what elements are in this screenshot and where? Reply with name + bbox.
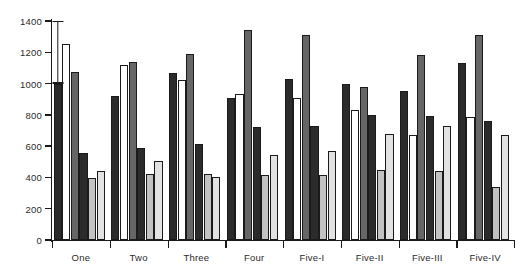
error-bar-cap-top — [52, 21, 63, 22]
bar — [409, 135, 417, 240]
bar — [475, 35, 483, 240]
y-axis-tick — [45, 177, 51, 178]
x-axis-group-separator — [456, 240, 457, 248]
bar — [501, 135, 509, 240]
bar — [129, 62, 137, 240]
bar — [261, 175, 269, 240]
bar — [492, 187, 500, 240]
y-axis-tick — [45, 52, 51, 53]
x-axis-group-separator — [283, 240, 284, 248]
x-axis-group-separator — [399, 240, 400, 248]
bar — [97, 171, 105, 240]
bar-chart: 0200400600800100012001400 OneTwoThreeFou… — [0, 0, 520, 276]
bar — [319, 175, 327, 240]
error-bar-stem — [57, 21, 58, 84]
bar — [169, 73, 177, 240]
x-axis-group-separator — [52, 240, 53, 248]
x-axis-group-label: Two — [130, 252, 148, 263]
plot-area — [52, 21, 514, 240]
bar — [285, 79, 293, 240]
bar — [120, 65, 128, 240]
bar — [426, 116, 434, 240]
bar — [458, 63, 466, 240]
x-axis-group-label: Five-IV — [469, 252, 501, 263]
y-axis-tick-label: 800 — [0, 109, 42, 120]
bar — [54, 84, 62, 240]
bar — [310, 126, 318, 240]
bar — [111, 96, 119, 240]
x-axis-group-separator — [514, 240, 515, 248]
bar — [195, 144, 203, 240]
y-axis-tick-label: 200 — [0, 203, 42, 214]
bar — [71, 72, 79, 240]
y-axis-tick-label: 1000 — [0, 78, 42, 89]
bar — [178, 80, 186, 240]
bar — [368, 115, 376, 240]
bar — [235, 94, 243, 240]
bar — [466, 117, 474, 240]
bar — [360, 87, 368, 240]
bar — [186, 54, 194, 240]
x-axis-group-label: Four — [244, 252, 264, 263]
bar — [253, 127, 261, 240]
x-axis-group-separator — [225, 240, 226, 248]
bar — [302, 35, 310, 240]
y-axis-tick — [45, 83, 51, 84]
x-axis-group-label: Five-III — [412, 252, 443, 263]
bar — [212, 177, 220, 240]
x-axis-group-separator — [110, 240, 111, 248]
y-axis-tick-label: 1200 — [0, 47, 42, 58]
y-axis-tick-label: 600 — [0, 141, 42, 152]
bar — [154, 161, 162, 240]
bar — [204, 174, 212, 240]
bar — [400, 91, 408, 240]
y-axis-tick — [45, 145, 51, 146]
y-axis-tick-label: 0 — [0, 235, 42, 246]
bar — [137, 148, 145, 240]
bar — [377, 170, 385, 240]
bar — [244, 30, 252, 240]
bar — [351, 110, 359, 240]
bar — [88, 178, 96, 240]
y-axis-tick — [45, 208, 51, 209]
y-axis-tick — [45, 114, 51, 115]
x-axis-group-label: Three — [183, 252, 209, 263]
bar — [328, 151, 336, 240]
x-axis-group-separator — [341, 240, 342, 248]
bar — [435, 171, 443, 240]
bar — [385, 134, 393, 240]
y-axis-tick-label: 1400 — [0, 16, 42, 27]
y-axis-tick — [45, 20, 51, 21]
x-axis-group-label: Five-I — [299, 252, 324, 263]
bar — [270, 155, 278, 240]
error-bar-cap-bottom — [52, 82, 63, 83]
x-axis-group-separator — [168, 240, 169, 248]
bar — [443, 126, 451, 240]
y-axis-tick-label: 400 — [0, 172, 42, 183]
x-axis-group-label: One — [72, 252, 91, 263]
bar — [484, 121, 492, 240]
bar — [417, 55, 425, 240]
bar — [342, 84, 350, 240]
bar — [79, 153, 87, 240]
error-bar — [52, 21, 64, 84]
bar — [227, 98, 235, 240]
x-axis-group-label: Five-II — [356, 252, 384, 263]
bar — [293, 98, 301, 240]
bar — [146, 174, 154, 240]
